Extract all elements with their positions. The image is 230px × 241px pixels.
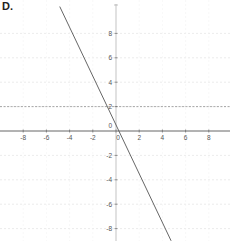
x-tick-label: -4 xyxy=(67,134,73,141)
x-tick-label: -8 xyxy=(20,134,26,141)
y-tick-label: -4 xyxy=(106,176,112,183)
x-tick-label: 4 xyxy=(161,134,165,141)
x-tick-label: 0 xyxy=(116,134,120,141)
y-tick-label: 4 xyxy=(108,79,112,86)
grid-lines xyxy=(0,0,230,241)
y-tick-label: 2 xyxy=(108,103,112,110)
x-tick-label: 8 xyxy=(207,134,211,141)
x-tick-label: 2 xyxy=(137,134,141,141)
y-tick-label: 6 xyxy=(108,54,112,61)
origin-label: 0 xyxy=(108,122,112,129)
x-tick-label: 6 xyxy=(184,134,188,141)
x-tick-label: -2 xyxy=(90,134,96,141)
x-tick-label: -6 xyxy=(44,134,50,141)
y-tick-label: -8 xyxy=(106,225,112,232)
y-tick-label: -2 xyxy=(106,152,112,159)
plotted-line xyxy=(60,7,171,241)
coordinate-plane: -8-6-4-2024688642-2-4-6-80 xyxy=(0,0,230,241)
y-tick-label: -6 xyxy=(106,201,112,208)
y-tick-label: 8 xyxy=(108,30,112,37)
function-line xyxy=(60,7,171,241)
